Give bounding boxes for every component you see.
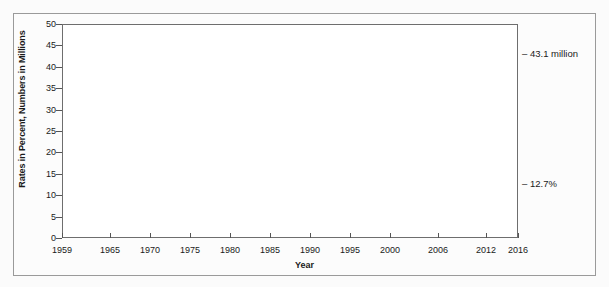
x-tick-label: 1985: [250, 245, 290, 255]
annotation-number-in-poverty: – 43.1 million: [522, 48, 578, 59]
x-tick-mark: [150, 233, 151, 238]
y-tick-mark: [56, 238, 62, 239]
x-tick-mark: [390, 233, 391, 238]
series-label-percent-in-poverty: Percent in poverty: [326, 208, 403, 219]
x-tick-label: 1959: [42, 245, 82, 255]
x-tick-mark: [190, 233, 191, 238]
x-tick-mark: [62, 233, 63, 238]
x-tick-label: 1975: [170, 245, 210, 255]
x-tick-label: 1970: [130, 245, 170, 255]
x-tick-label: 1980: [210, 245, 250, 255]
figure: Rates in Percent, Numbers in Millions 50…: [0, 0, 609, 287]
series-label-number-in-poverty: Number in poverty: [324, 114, 402, 125]
y-tick-label: 45: [26, 41, 56, 49]
plot-frame: [62, 24, 518, 238]
x-tick-mark: [438, 233, 439, 238]
x-axis-title: Year: [0, 260, 609, 270]
x-tick-label: 2000: [370, 245, 410, 255]
y-tick-label: 15: [26, 170, 56, 178]
y-tick-label: 10: [26, 191, 56, 199]
x-tick-mark: [230, 233, 231, 238]
plot-area: Number in poverty Percent in poverty: [62, 24, 518, 238]
x-tick-mark: [350, 233, 351, 238]
x-tick-mark: [486, 233, 487, 238]
x-tick-label: 2016: [498, 245, 538, 255]
y-tick-label: 35: [26, 84, 56, 92]
annotation-percent-in-poverty: – 12.7%: [522, 178, 557, 189]
x-tick-mark: [518, 233, 519, 238]
y-tick-label: 40: [26, 63, 56, 71]
x-tick-label: 1990: [290, 245, 330, 255]
x-tick-mark: [270, 233, 271, 238]
x-tick-mark: [310, 233, 311, 238]
y-axis-tick-labels: 50454035302520151050: [20, 18, 56, 244]
x-tick-label: 1995: [330, 245, 370, 255]
x-tick-label: 2006: [418, 245, 458, 255]
x-tick-label: 1965: [90, 245, 130, 255]
x-tick-mark: [110, 233, 111, 238]
y-tick-label: 0: [26, 234, 56, 242]
y-tick-label: 30: [26, 106, 56, 114]
y-tick-label: 5: [26, 213, 56, 221]
y-tick-label: 25: [26, 127, 56, 135]
y-tick-label: 50: [26, 20, 56, 28]
y-tick-label: 20: [26, 148, 56, 156]
